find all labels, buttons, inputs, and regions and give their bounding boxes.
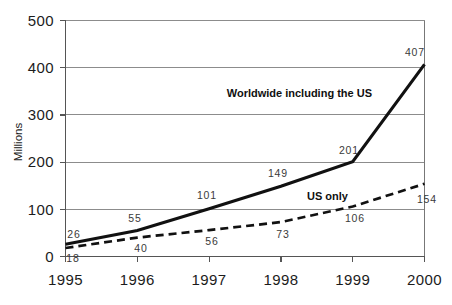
x-tick-label-1999: 1999: [335, 271, 370, 288]
series-annotation-us-only: US only: [307, 190, 349, 202]
point-label-us-1997: 56: [205, 235, 218, 247]
y-tick-label-200: 200: [28, 153, 54, 170]
point-label-worldwide-1998: 149: [268, 167, 288, 179]
x-tick-label-1997: 1997: [192, 271, 227, 288]
point-label-us-1996: 40: [134, 242, 147, 254]
point-label-worldwide-1997: 101: [197, 189, 217, 201]
point-label-worldwide-2000: 407: [405, 46, 425, 58]
point-label-us-1998: 73: [276, 228, 289, 240]
line-chart: 500 400 300 200 100 0 Millions 1995 1996…: [0, 0, 452, 305]
chart-canvas: 500 400 300 200 100 0 Millions 1995 1996…: [0, 0, 452, 305]
y-tick-label-300: 300: [28, 106, 54, 123]
x-tick-label-1995: 1995: [48, 271, 83, 288]
x-tick-label-2000: 2000: [407, 271, 442, 288]
y-tick-label-500: 500: [28, 12, 54, 29]
point-label-us-1999: 106: [345, 212, 365, 224]
x-tick-label-1996: 1996: [120, 271, 155, 288]
y-tick-label-100: 100: [28, 201, 54, 218]
series-annotation-worldwide: Worldwide including the US: [227, 87, 372, 99]
point-label-us-1995: 18: [66, 252, 79, 264]
point-label-worldwide-1999: 201: [339, 144, 359, 156]
point-label-worldwide-1995: 26: [67, 228, 80, 240]
y-tick-label-400: 400: [28, 59, 54, 76]
point-label-us-2000: 154: [417, 193, 437, 205]
x-tick-label-1998: 1998: [263, 271, 298, 288]
point-label-worldwide-1996: 55: [128, 212, 141, 224]
y-axis-title: Millions: [12, 123, 24, 162]
y-tick-label-0: 0: [45, 248, 54, 265]
